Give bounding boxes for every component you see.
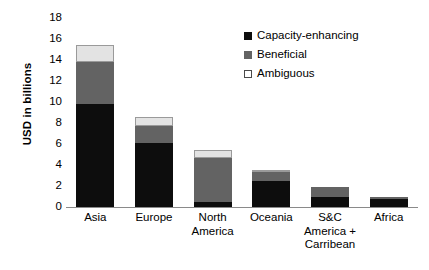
legend-item: Capacity-enhancing	[244, 26, 424, 45]
y-tick-label: 6	[36, 138, 62, 150]
bar-segment	[252, 172, 290, 181]
stacked-bar	[194, 150, 232, 207]
stacked-bar	[135, 117, 173, 207]
x-tick-label-line: America +	[295, 225, 366, 239]
stacked-bar	[76, 45, 114, 207]
x-tick-label-line: Africa	[353, 211, 424, 225]
legend-item: Ambiguous	[244, 64, 424, 83]
y-tick-label: 12	[36, 75, 62, 87]
legend-item-label: Ambiguous	[257, 68, 315, 80]
x-axis-category-labels: AsiaEuropeNorthAmericaOceaniaS&CAmerica …	[66, 211, 418, 269]
bar-segment	[252, 181, 290, 207]
stacked-bar-chart: USD in billions 181614121086420 AsiaEuro…	[0, 0, 429, 270]
bar-group	[194, 18, 232, 207]
x-tick-label: Africa	[353, 211, 424, 225]
bar-segment	[135, 143, 173, 207]
y-tick-label: 0	[36, 201, 62, 213]
bar-segment	[135, 117, 173, 126]
bar-segment	[76, 45, 114, 62]
y-tick-label: 4	[36, 159, 62, 171]
bar-segment	[370, 199, 408, 207]
y-tick-label: 18	[36, 12, 62, 24]
y-tick-label: 16	[36, 33, 62, 45]
legend-swatch-black	[244, 32, 252, 40]
bar-segment	[194, 158, 232, 202]
bar-segment	[194, 150, 232, 157]
bar-group	[135, 18, 173, 207]
x-axis-baseline	[66, 207, 418, 208]
y-axis-title: USD in billions	[21, 39, 33, 169]
y-tick-label: 14	[36, 54, 62, 66]
y-axis-tick-labels: 181614121086420	[36, 18, 62, 207]
chart-legend: Capacity-enhancingBeneficialAmbiguous	[244, 26, 424, 83]
stacked-bar	[370, 197, 408, 207]
y-tick-label: 10	[36, 96, 62, 108]
x-tick-label-line: Carribean	[295, 238, 366, 252]
legend-item: Beneficial	[244, 45, 424, 64]
legend-item-label: Beneficial	[257, 49, 307, 61]
legend-item-label: Capacity-enhancing	[257, 30, 359, 42]
bar-segment	[76, 62, 114, 104]
y-tick-label: 8	[36, 117, 62, 129]
bar-group	[76, 18, 114, 207]
stacked-bar	[252, 170, 290, 207]
bar-segment	[194, 202, 232, 207]
bar-segment	[76, 104, 114, 207]
y-tick-label: 2	[36, 180, 62, 192]
bar-segment	[311, 197, 349, 208]
x-tick-label-line: America	[177, 225, 248, 239]
legend-swatch-gray	[244, 51, 252, 59]
bar-segment	[311, 187, 349, 196]
stacked-bar	[311, 187, 349, 207]
bar-segment	[135, 126, 173, 143]
legend-swatch-white	[244, 70, 252, 78]
